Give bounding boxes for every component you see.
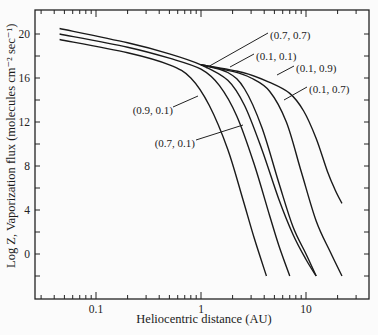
- y-tick-label: 8: [24, 160, 30, 172]
- x-axis-label: Heliocentric distance (AU): [0, 312, 378, 327]
- annotation-leader: [284, 87, 307, 100]
- series-label: (0.9, 0.1): [133, 104, 174, 117]
- annotation-leader: [173, 96, 198, 107]
- series-curve: [60, 29, 317, 277]
- annotation-leader: [277, 66, 294, 75]
- annotation-leader: [230, 54, 254, 67]
- y-tick-label: 20: [19, 28, 31, 40]
- series-label: (0.1, 0.1): [256, 50, 297, 63]
- series-curve: [60, 40, 267, 277]
- series-curve: [201, 65, 342, 276]
- y-axis-label: Log Z, Vaporization flux (molecules cm⁻²…: [3, 38, 19, 268]
- plot-frame: [35, 10, 369, 299]
- y-tick-label: 12: [19, 116, 31, 128]
- y-tick-label: 4: [24, 204, 30, 216]
- series-label: (0.7, 0.1): [155, 137, 196, 150]
- series-label: (0.1, 0.9): [296, 62, 337, 75]
- y-tick-label: 0: [24, 248, 30, 260]
- y-tick-label: 16: [19, 72, 31, 84]
- plot-area: 0.1110048121620(0.7, 0.7)(0.1, 0.1)(0.1,…: [0, 0, 378, 335]
- series-curve: [201, 65, 316, 276]
- series-label: (0.1, 0.7): [309, 83, 350, 96]
- series-label: (0.7, 0.7): [270, 29, 311, 42]
